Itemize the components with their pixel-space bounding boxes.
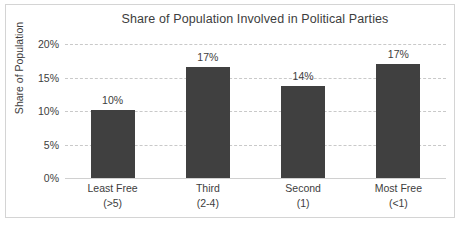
bar[interactable]: [376, 64, 420, 178]
gridline: [65, 178, 446, 179]
bar[interactable]: [186, 67, 230, 178]
bar[interactable]: [281, 86, 325, 178]
chart-container: Share of Population Involved in Politica…: [0, 0, 460, 229]
y-axis-tick-label: 20%: [15, 38, 59, 50]
bar-value-label: 14%: [273, 70, 333, 82]
plot-area: 10%17%14%17%: [65, 44, 446, 178]
chart-title: Share of Population Involved in Politica…: [60, 12, 450, 26]
y-axis-tick-label: 5%: [15, 139, 59, 151]
bar-value-label: 17%: [178, 51, 238, 63]
y-axis-tick-label: 15%: [15, 72, 59, 84]
y-axis-tick-label: 10%: [15, 105, 59, 117]
x-axis-tick-label: Least Free(>5): [63, 181, 163, 211]
y-axis-tick-label: 0%: [15, 172, 59, 184]
bar-value-label: 17%: [368, 48, 428, 60]
x-axis-tick-labels: Least Free(>5)Third(2-4)Second(1)Most Fr…: [65, 181, 446, 217]
x-axis-tick-label: Most Free(<1): [348, 181, 448, 211]
gridline: [65, 44, 446, 45]
y-axis-tick-labels: 0%5%10%15%20%: [11, 44, 59, 178]
x-axis-tick-label: Second(1): [253, 181, 353, 211]
bar[interactable]: [91, 110, 135, 178]
x-axis-tick-label: Third(2-4): [158, 181, 258, 211]
bar-value-label: 10%: [83, 94, 143, 106]
